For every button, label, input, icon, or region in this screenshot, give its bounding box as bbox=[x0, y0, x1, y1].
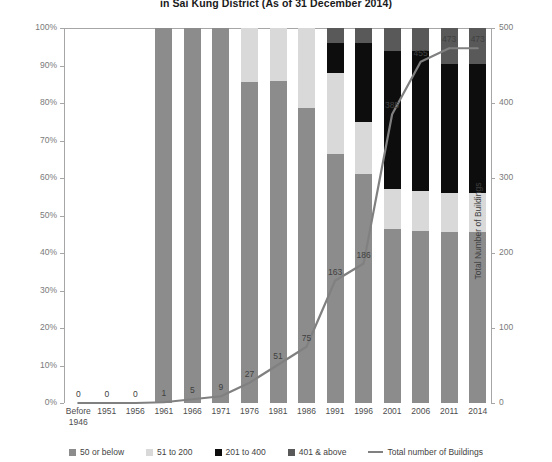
legend-item-label: 201 to 400 bbox=[226, 447, 266, 457]
x-axis-label: 2001 bbox=[383, 406, 402, 417]
legend-item-label: 51 to 200 bbox=[157, 447, 192, 457]
x-axis-label: 1981 bbox=[269, 406, 288, 417]
y-axis-right-tick bbox=[491, 403, 495, 404]
legend-item[interactable]: 51 to 200 bbox=[146, 447, 192, 457]
y-axis-right-tick-label: 0 bbox=[499, 397, 504, 407]
y-axis-left-tick-label: 100% bbox=[35, 22, 57, 32]
line-point-label: 473 bbox=[442, 34, 456, 44]
x-axis-label: Before1946 bbox=[66, 406, 91, 427]
y-axis-left-tick-label: 30% bbox=[40, 285, 57, 295]
legend-item[interactable]: 201 to 400 bbox=[215, 447, 266, 457]
line-point-label: 0 bbox=[133, 389, 138, 399]
y-axis-left-tick-label: 40% bbox=[40, 247, 57, 257]
x-axis-label: 1996 bbox=[354, 406, 373, 417]
chart-title: in Sai Kung District (As of 31 December … bbox=[0, 0, 552, 9]
legend-item-label: Total number of Buildings bbox=[387, 447, 482, 457]
y-axis-left-tick-label: 60% bbox=[40, 172, 57, 182]
y-axis-right-tick-label: 500 bbox=[499, 22, 513, 32]
line-point-label: 0 bbox=[104, 389, 109, 399]
x-axis-label: 1976 bbox=[240, 406, 259, 417]
y-axis-left-tick-label: 90% bbox=[40, 60, 57, 70]
legend-swatch-icon bbox=[215, 449, 222, 456]
y-axis-right-tick-label: 100 bbox=[499, 322, 513, 332]
y-axis-right-tick-label: 200 bbox=[499, 247, 513, 257]
y-axis-left-tick-label: 80% bbox=[40, 97, 57, 107]
y-axis-right-title: Total Number of Buildings bbox=[473, 183, 483, 280]
x-axis-label: 2011 bbox=[440, 406, 458, 417]
legend-item[interactable]: Total number of Buildings bbox=[368, 447, 482, 457]
plot-area: 0%10%20%30%40%50%60%70%80%90%100% 010020… bbox=[64, 28, 492, 403]
line-point-label: 385 bbox=[385, 100, 399, 110]
line-point-label: 473 bbox=[471, 34, 485, 44]
legend-item[interactable]: 401 & above bbox=[288, 447, 347, 457]
x-axis-label: 1951 bbox=[97, 406, 116, 417]
legend-line-icon bbox=[368, 451, 383, 453]
total-buildings-line bbox=[64, 28, 492, 403]
x-axis-label: 1956 bbox=[126, 406, 145, 417]
x-axis-label: 1991 bbox=[326, 406, 345, 417]
line-point-label: 163 bbox=[328, 267, 342, 277]
legend-swatch-icon bbox=[288, 449, 295, 456]
x-axis-label: 2006 bbox=[411, 406, 430, 417]
y-axis-right-tick-label: 300 bbox=[499, 172, 513, 182]
y-axis-left-tick-label: 70% bbox=[40, 135, 57, 145]
line-point-label: 0 bbox=[76, 389, 81, 399]
y-axis-left-tick-label: 50% bbox=[40, 210, 57, 220]
legend-item-label: 50 or below bbox=[80, 447, 124, 457]
x-axis-label: 2014 bbox=[468, 406, 487, 417]
y-axis-left-tick-label: 0% bbox=[45, 397, 57, 407]
y-axis-left-tick-label: 20% bbox=[40, 322, 57, 332]
chart-legend: 50 or below51 to 200201 to 400401 & abov… bbox=[0, 447, 552, 457]
chart-container: in Sai Kung District (As of 31 December … bbox=[0, 0, 552, 462]
line-point-label: 51 bbox=[273, 351, 282, 361]
y-axis-left-tick-label: 10% bbox=[40, 360, 57, 370]
x-axis-label: 1971 bbox=[211, 406, 230, 417]
legend-swatch-icon bbox=[146, 449, 153, 456]
x-axis-labels: Before1946195119561961196619711976198119… bbox=[64, 406, 492, 434]
legend-swatch-icon bbox=[69, 449, 76, 456]
line-point-label: 5 bbox=[190, 385, 195, 395]
line-point-label: 1 bbox=[161, 388, 166, 398]
line-point-label: 27 bbox=[245, 369, 254, 379]
y-axis-right-tick-label: 400 bbox=[499, 97, 513, 107]
x-axis-label: 1986 bbox=[297, 406, 316, 417]
line-point-label: 9 bbox=[219, 382, 224, 392]
x-axis-label: 1961 bbox=[154, 406, 173, 417]
line-point-label: 455 bbox=[414, 48, 428, 58]
line-point-label: 186 bbox=[357, 250, 371, 260]
y-axis-left-tick bbox=[60, 403, 64, 404]
legend-item-label: 401 & above bbox=[299, 447, 347, 457]
x-axis-label: 1966 bbox=[183, 406, 202, 417]
line-point-label: 75 bbox=[302, 333, 311, 343]
legend-item[interactable]: 50 or below bbox=[69, 447, 124, 457]
